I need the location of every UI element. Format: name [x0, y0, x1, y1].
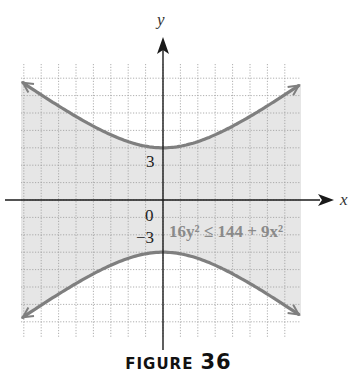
x-axis-label: x — [339, 190, 348, 209]
x-axis-arrow-icon — [318, 194, 334, 206]
figure-caption: FIGURE 36 — [0, 350, 357, 374]
tick-label-neg-3: −3 — [136, 228, 154, 247]
tick-label-origin: 0 — [145, 206, 154, 225]
hyperbola-inequality-graph: x y 3 0 −3 16y² ≤ 144 + 9x² — [0, 0, 357, 390]
inequality-label: 16y² ≤ 144 + 9x² — [169, 222, 283, 241]
caption-word: FIGURE — [125, 355, 193, 373]
y-axis-label: y — [155, 10, 165, 29]
caption-number: 36 — [200, 350, 231, 374]
tick-label-3: 3 — [146, 152, 155, 171]
